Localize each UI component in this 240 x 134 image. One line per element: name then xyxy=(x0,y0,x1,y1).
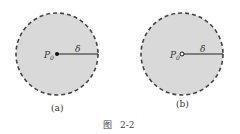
figure-caption-number: 2-2 xyxy=(120,120,135,130)
figure-2-2: P0 δ (a) P0 δ (b) 图 2-2 xyxy=(0,0,240,134)
center-point-hollow-icon xyxy=(180,52,184,56)
radius-label-b: δ xyxy=(200,44,205,54)
radius-label-a: δ xyxy=(75,44,80,54)
panel-label-a: (a) xyxy=(51,103,63,113)
figure-caption-prefix: 图 xyxy=(103,120,112,130)
center-point-filled-icon xyxy=(55,52,59,56)
panel-b: P0 δ (b) xyxy=(141,13,223,109)
panel-a: P0 δ (a) xyxy=(16,13,98,113)
panel-label-b: (b) xyxy=(176,99,189,109)
